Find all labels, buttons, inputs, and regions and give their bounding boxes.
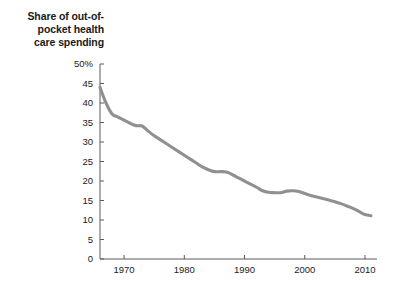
y-tick-label: 10 bbox=[82, 214, 93, 225]
y-tick-label: 45 bbox=[82, 78, 93, 89]
x-tick-label: 1980 bbox=[174, 264, 195, 275]
y-tick-label: 50% bbox=[74, 58, 94, 69]
chart-container: Share of out-of- pocket health care spen… bbox=[0, 0, 400, 283]
x-tick-label: 2000 bbox=[294, 264, 315, 275]
y-tick-label: 35 bbox=[82, 117, 93, 128]
y-tick-label: 20 bbox=[82, 175, 93, 186]
x-axis-tick-marks bbox=[124, 255, 365, 259]
y-tick-label: 0 bbox=[88, 253, 93, 264]
y-tick-label: 5 bbox=[88, 234, 93, 245]
y-axis-tick-labels: 05101520253035404550% bbox=[74, 58, 94, 264]
x-tick-label: 2010 bbox=[354, 264, 375, 275]
x-axis-tick-labels: 19701980199020002010 bbox=[114, 264, 376, 275]
x-tick-label: 1970 bbox=[114, 264, 135, 275]
y-tick-label: 25 bbox=[82, 156, 93, 167]
y-tick-label: 30 bbox=[82, 136, 93, 147]
data-series-line bbox=[100, 87, 371, 215]
y-tick-label: 40 bbox=[82, 97, 93, 108]
y-tick-label: 15 bbox=[82, 195, 93, 206]
chart-svg: 05101520253035404550% 197019801990200020… bbox=[0, 0, 400, 283]
x-tick-label: 1990 bbox=[234, 264, 255, 275]
